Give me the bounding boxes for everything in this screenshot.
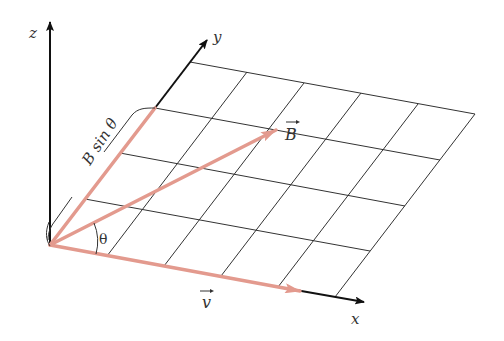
v-label: v <box>202 293 211 312</box>
b-label: B <box>284 125 297 144</box>
theta-label: θ <box>99 231 107 247</box>
b-label-group: B <box>284 120 300 144</box>
x-axis-label: x <box>351 310 360 328</box>
theta-arc <box>94 223 98 254</box>
v-label-group: v <box>200 289 214 312</box>
y-axis-label: y <box>212 28 222 46</box>
z-axis-label: z <box>28 24 37 42</box>
vector-diagram: z y x B v θ B sin θ <box>0 0 504 341</box>
y-axis <box>155 40 207 108</box>
